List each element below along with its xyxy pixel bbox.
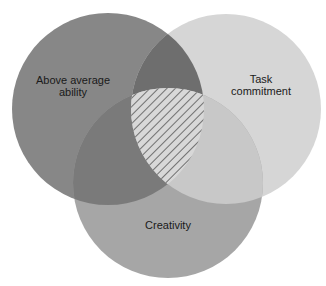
label-commitment: commitment	[231, 85, 291, 97]
label-above-average: Above average	[36, 74, 110, 86]
venn-diagram: Above average ability Task commitment Cr…	[0, 0, 326, 286]
label-creativity: Creativity	[145, 219, 191, 231]
label-ability: ability	[59, 86, 88, 98]
label-task: Task	[250, 73, 273, 85]
